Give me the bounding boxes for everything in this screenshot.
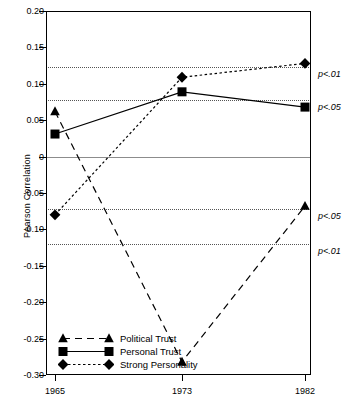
x-axis-tick-label: 1965 [32, 386, 78, 396]
y-axis-tick-mark [39, 266, 46, 267]
legend-item: Political Trust [58, 332, 198, 345]
y-axis-tick-label: 0.15 [4, 42, 44, 52]
legend-label: Personal Trust [120, 345, 181, 358]
x-axis-tick-mark [55, 375, 56, 381]
legend-key-diamond-icon [58, 358, 114, 371]
significance-label: p<.01 [318, 69, 341, 79]
legend-marker [59, 347, 68, 356]
y-axis-tick-mark [39, 339, 46, 340]
legend-marker [58, 333, 68, 342]
legend-marker [104, 359, 114, 370]
y-axis-tick-mark [39, 84, 46, 85]
legend-item: Strong Personality [58, 358, 198, 371]
legend-key-triangle-icon [58, 332, 114, 345]
legend-marker [104, 333, 114, 342]
x-axis-tick-mark [305, 375, 306, 381]
y-axis-tick-label: -0.05 [4, 188, 44, 198]
legend-item: Personal Trust [58, 345, 198, 358]
chart-figure: Pearson Correlation 0.200.150.100.050-0.… [0, 0, 364, 411]
y-axis-tick-label: 0.10 [4, 79, 44, 89]
x-axis-tick-label: 1973 [159, 386, 205, 396]
y-axis-tick-mark [39, 157, 46, 158]
y-axis-tick-label: -0.20 [4, 297, 44, 307]
y-axis-tick-mark [39, 193, 46, 194]
y-axis-tick-mark [39, 11, 46, 12]
y-axis-tick-label: 0.05 [4, 115, 44, 125]
legend-key-square-icon [58, 345, 114, 358]
legend-label: Strong Personality [120, 358, 198, 371]
y-axis-tick-label: 0.20 [4, 6, 44, 16]
significance-label: p<.05 [318, 102, 341, 112]
y-axis-tick-label: -0.15 [4, 261, 44, 271]
y-axis-tick-mark [39, 229, 46, 230]
legend-label: Political Trust [120, 332, 177, 345]
y-axis-tick-label: -0.10 [4, 224, 44, 234]
chart-legend: Political TrustPersonal TrustStrong Pers… [58, 332, 198, 371]
significance-label: p<.01 [318, 246, 341, 256]
plot-area [46, 11, 311, 375]
legend-marker [58, 359, 68, 370]
x-axis-tick-mark [182, 375, 183, 381]
y-axis-tick-label: 0 [4, 152, 44, 162]
y-axis-tick-mark [39, 302, 46, 303]
significance-label: p<.05 [318, 211, 341, 221]
y-axis-tick-mark [39, 375, 46, 376]
x-axis-tick-label: 1982 [282, 386, 328, 396]
y-axis-tick-mark [39, 120, 46, 121]
legend-marker [105, 347, 114, 356]
y-axis-tick-mark [39, 47, 46, 48]
y-axis-tick-label: -0.30 [4, 370, 44, 380]
y-axis-tick-label: -0.25 [4, 334, 44, 344]
